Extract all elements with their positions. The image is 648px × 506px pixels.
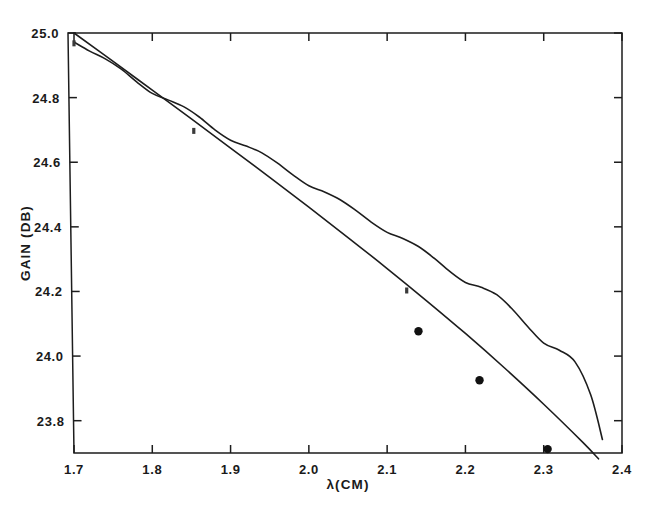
curve-annotation-mark bbox=[405, 287, 408, 293]
y-tick-label: 24.2 bbox=[35, 284, 63, 299]
y-axis-title: GAIN (DB) bbox=[18, 205, 33, 281]
data-point-marker bbox=[475, 376, 483, 384]
y-tick-label: 23.8 bbox=[37, 414, 65, 429]
data-point-marker bbox=[414, 327, 422, 335]
y-tick-label: 24.8 bbox=[32, 91, 60, 106]
x-tick-label: 1.9 bbox=[221, 462, 241, 477]
data-point-marker bbox=[543, 445, 551, 453]
x-tick-label: 1.8 bbox=[142, 462, 162, 477]
x-tick-label: 2.1 bbox=[377, 462, 397, 477]
x-tick-label: 2.2 bbox=[455, 462, 475, 477]
x-tick-label: 2.0 bbox=[299, 462, 319, 477]
gain-vs-wavelength-chart: 23.824.024.224.424.624.825.0 1.71.81.92.… bbox=[0, 0, 648, 506]
curve-annotation-mark bbox=[72, 40, 75, 46]
chart-background bbox=[0, 0, 648, 506]
y-tick-label: 24.0 bbox=[36, 349, 64, 364]
y-tick-label: 24.4 bbox=[34, 220, 62, 235]
curve-annotation-mark bbox=[192, 128, 195, 134]
x-tick-label: 2.3 bbox=[534, 462, 554, 477]
y-tick-label: 25.0 bbox=[31, 26, 59, 41]
x-tick-label: 1.7 bbox=[64, 462, 84, 477]
x-axis-title: λ(CM) bbox=[327, 477, 370, 492]
y-tick-label: 24.6 bbox=[33, 155, 61, 170]
x-tick-label: 2.4 bbox=[612, 462, 632, 477]
